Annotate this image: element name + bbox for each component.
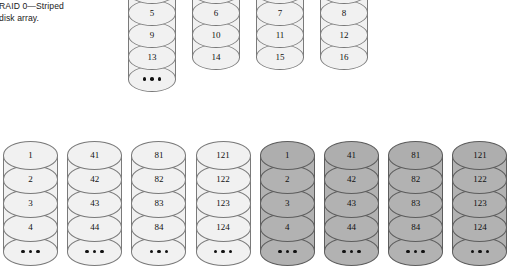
disk-block-label: 13: [148, 52, 157, 62]
disk-block: 121: [452, 141, 507, 170]
disk-block-label: 83: [154, 198, 163, 208]
disk-block-label: 43: [90, 198, 99, 208]
disk-block-label: 42: [347, 174, 356, 184]
disk-block-label: 124: [216, 222, 230, 232]
disk-block-label: 16: [340, 52, 349, 62]
bottom-row-disk-8: 124123122121: [452, 0, 507, 271]
disk-block-label: 84: [154, 222, 163, 232]
disk-block-label: 15: [276, 52, 285, 62]
disk-block-label: 82: [154, 174, 163, 184]
disk-block-label: 83: [411, 198, 420, 208]
disk-block-label: 43: [347, 198, 356, 208]
disk-block: 1: [260, 141, 315, 170]
disk-block-label: 4: [285, 222, 290, 232]
disk-block-label: 84: [411, 222, 420, 232]
raid-figure: RAID 0—Striped disk array. 1395114106215…: [0, 0, 513, 271]
disk-block-label: 1: [28, 150, 33, 160]
disk-block-label: 44: [90, 222, 99, 232]
disk-block-label: 3: [28, 198, 33, 208]
disk-block-label: 9: [150, 30, 155, 40]
disk-block-label: 4: [28, 222, 33, 232]
disk-block-label: 121: [473, 150, 487, 160]
disk-block-label: 1: [285, 150, 290, 160]
disk-block-label: 14: [212, 52, 221, 62]
disk-block-label: 11: [276, 30, 285, 40]
disk-block-label: 12: [340, 30, 349, 40]
disk-block-label: 41: [347, 150, 356, 160]
disk-block-label: 81: [411, 150, 420, 160]
disk-block-label: 124: [473, 222, 487, 232]
disk-block-label: 81: [154, 150, 163, 160]
disk-block-label: 5: [150, 8, 155, 18]
bottom-row-disk-7: 84838281: [388, 0, 443, 271]
disk-block: 121: [196, 141, 251, 170]
disk-block-label: 122: [216, 174, 230, 184]
disk-block-label: 7: [278, 8, 283, 18]
disk-block-label: 2: [285, 174, 290, 184]
disk-block-label: 6: [214, 8, 219, 18]
disk-block: 81: [388, 141, 443, 170]
disk-block-label: 82: [411, 174, 420, 184]
disk-block: 81: [131, 141, 186, 170]
disk-block-label: 122: [473, 174, 487, 184]
disk-block-label: 121: [216, 150, 230, 160]
disk-block: 41: [324, 141, 379, 170]
disk-block-label: 42: [90, 174, 99, 184]
disk-block: 1: [3, 141, 58, 170]
disk-block-label: 123: [216, 198, 230, 208]
disk-block-label: 44: [347, 222, 356, 232]
bottom-row-disk-1: 4321: [3, 0, 58, 271]
disk-block-label: 123: [473, 198, 487, 208]
disk-block-label: 3: [285, 198, 290, 208]
disk-block-label: 2: [28, 174, 33, 184]
disk-block-label: 41: [90, 150, 99, 160]
disk-block: 41: [67, 141, 122, 170]
bottom-row-disk-2: 44434241: [67, 0, 122, 271]
disk-block-label: 8: [342, 8, 347, 18]
disk-block-label: 10: [212, 30, 221, 40]
